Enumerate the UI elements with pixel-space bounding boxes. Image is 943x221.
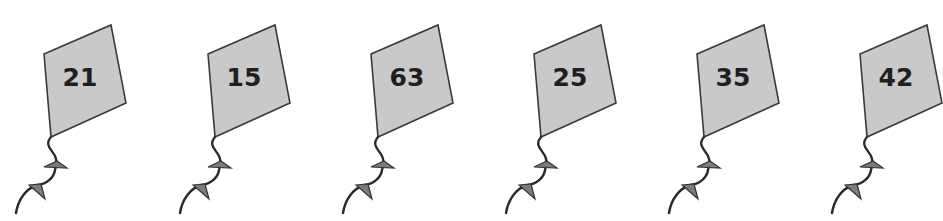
kite-tail xyxy=(343,137,384,213)
kite-4: 25 xyxy=(506,25,616,213)
kite-number: 42 xyxy=(879,63,914,92)
kite-tail-bow-2 xyxy=(356,184,372,199)
kite-tail xyxy=(180,137,221,213)
kites-worksheet: 211563253542 xyxy=(0,0,943,221)
kite-tail-bow-1 xyxy=(697,161,720,168)
kite-tail xyxy=(16,137,57,213)
kite-tail-bow-2 xyxy=(682,184,698,199)
kite-1: 21 xyxy=(16,25,126,213)
kite-number: 63 xyxy=(390,63,425,92)
kite-6: 42 xyxy=(832,25,942,213)
kite-tail xyxy=(832,137,873,213)
kite-number: 35 xyxy=(716,63,751,92)
kites-row: 211563253542 xyxy=(16,25,942,213)
kite-tail xyxy=(506,137,547,213)
kite-tail-bow-2 xyxy=(845,184,861,199)
kite-tail-bow-2 xyxy=(519,184,535,199)
kite-tail-bow-1 xyxy=(208,161,231,168)
kite-tail-bow-2 xyxy=(193,184,209,199)
kite-5: 35 xyxy=(669,25,779,213)
kite-tail-bow-1 xyxy=(371,161,394,168)
kite-tail-bow-1 xyxy=(534,161,557,168)
kite-number: 15 xyxy=(227,63,262,92)
kite-tail-bow-1 xyxy=(44,161,67,168)
kite-tail xyxy=(669,137,710,213)
kite-tail-bow-2 xyxy=(29,184,45,199)
kite-number: 21 xyxy=(63,63,98,92)
kite-3: 63 xyxy=(343,25,453,213)
kite-2: 15 xyxy=(180,25,290,213)
kite-number: 25 xyxy=(553,63,588,92)
kite-tail-bow-1 xyxy=(860,161,883,168)
